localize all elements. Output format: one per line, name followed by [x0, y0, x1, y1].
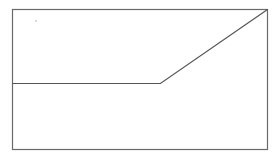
line-chart	[0, 0, 279, 158]
series-line	[13, 10, 268, 84]
plot-frame	[13, 10, 268, 150]
marker-dot	[35, 20, 37, 22]
